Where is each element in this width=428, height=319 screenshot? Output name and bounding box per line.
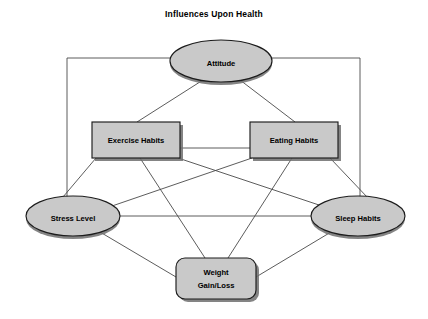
edge-eating-habits-weight-gain-loss (228, 158, 292, 258)
weight-gain-loss-rect (176, 258, 256, 299)
eating-habits-label: Eating Habits (270, 136, 319, 145)
diagram-canvas: Attitude Exercise Habits Eating Habits S… (0, 0, 428, 319)
edge-eating-habits-stress-level (112, 158, 252, 206)
node-weight-gain-loss[interactable]: Weight Gain/Loss (176, 258, 259, 302)
edge-stress-level-weight-gain-loss (100, 232, 176, 277)
page-title: Influences Upon Health (165, 9, 263, 19)
edge-sleep-habits-weight-gain-loss (256, 232, 331, 277)
edge-layer (63, 58, 368, 277)
exercise-habits-label: Exercise Habits (108, 136, 165, 145)
sleep-habits-label: Sleep Habits (335, 214, 381, 223)
node-stress-level[interactable]: Stress Level (26, 196, 120, 239)
attitude-label: Attitude (207, 59, 236, 68)
node-sleep-habits[interactable]: Sleep Habits (311, 196, 405, 239)
weight-gain-loss-label-line1: Weight (203, 268, 229, 277)
edge-exercise-habits-weight-gain-loss (140, 158, 205, 258)
node-attitude[interactable]: Attitude (170, 40, 272, 85)
edge-attitude-exercise-habits (137, 80, 203, 122)
node-exercise-habits[interactable]: Exercise Habits (92, 122, 183, 161)
weight-gain-loss-label-line2: Gain/Loss (198, 281, 235, 290)
edge-attitude-eating-habits (240, 80, 295, 122)
edge-exercise-habits-sleep-habits (178, 158, 322, 206)
edge-eating-habits-sleep-habits (330, 158, 368, 198)
influences-upon-health-diagram: Attitude Exercise Habits Eating Habits S… (0, 0, 428, 319)
node-eating-habits[interactable]: Eating Habits (250, 122, 341, 161)
stress-level-label: Stress Level (51, 214, 96, 223)
edge-exercise-habits-stress-level (63, 158, 96, 197)
